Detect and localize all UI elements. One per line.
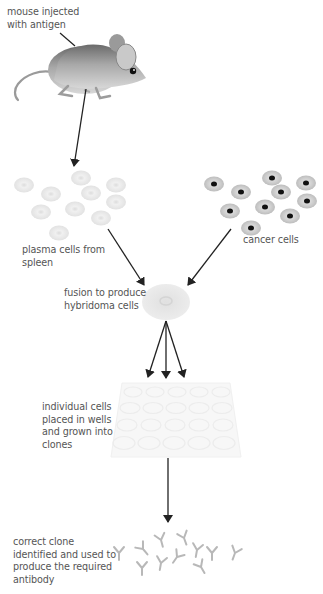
arrow-cancer-to-fusion [188, 229, 231, 285]
label-fusion: fusion to produce hybridoma cells [64, 287, 146, 312]
antibody-icon [169, 549, 185, 565]
cancer-cell-icon [262, 171, 282, 186]
antibody-icon [137, 562, 147, 575]
label-line: individual cells [42, 401, 113, 414]
antibody-icon [155, 533, 168, 548]
label-line: correct clone [13, 536, 116, 549]
cancer-cell-icon [204, 177, 224, 192]
plasma-cell-icon [49, 226, 69, 241]
label-wells: individual cells placed in wells and gro… [42, 401, 113, 451]
cancer-cell-icon [271, 185, 291, 200]
label-line: cancer cells [243, 234, 299, 247]
label-line: antibody [13, 574, 116, 587]
plasma-cell-icon [106, 178, 126, 193]
antibodies-group [114, 531, 242, 576]
antibody-icon [194, 559, 209, 575]
label-line: placed in wells [42, 414, 113, 427]
label-line: clones [42, 439, 113, 452]
cancer-cell-icon [255, 200, 275, 215]
antibody-icon [228, 546, 242, 562]
plasma-cell-icon [71, 171, 91, 186]
mouse-label-pointer [60, 33, 75, 46]
cancer-cell-icon [297, 194, 317, 209]
arrow-fusion-to-wells-left [148, 321, 166, 377]
label-line: mouse injected [7, 6, 79, 19]
label-plasma-cells: plasma cells from spleen [22, 244, 105, 269]
diagram-canvas [0, 0, 323, 594]
label-line: produce the required [13, 561, 116, 574]
antibody-icon [135, 541, 151, 557]
label-line: fusion to produce [64, 287, 146, 300]
label-correct-clone: correct clone identified and used to pro… [13, 536, 116, 586]
plasma-cell-icon [65, 202, 85, 217]
plasma-cell-icon [31, 205, 51, 220]
cancer-cell-icon [280, 209, 300, 224]
label-line: with antigen [7, 19, 79, 32]
label-mouse: mouse injected with antigen [7, 6, 79, 31]
label-line: spleen [22, 257, 105, 270]
arrow-plasma-to-fusion [108, 229, 144, 285]
antibody-icon [155, 556, 167, 571]
label-cancer-cells: cancer cells [243, 234, 299, 247]
well-plate-icon [111, 383, 241, 457]
hybridoma-cell-icon [142, 284, 190, 320]
label-line: and grown into [42, 426, 113, 439]
antibody-icon [207, 547, 217, 560]
cancer-cell-icon [220, 204, 240, 219]
arrow-mouse-to-plasma [74, 89, 86, 166]
plasma-cell-icon [81, 186, 101, 201]
plasma-cell-icon [14, 178, 34, 193]
label-line: identified and used to [13, 549, 116, 562]
cancer-cell-icon [231, 185, 251, 200]
plasma-cell-icon [91, 211, 111, 226]
antibody-icon [191, 543, 203, 558]
mouse-illustration [15, 34, 146, 100]
plasma-cell-icon [41, 187, 61, 202]
label-line: hybridoma cells [64, 300, 146, 313]
plasma-cell-icon [106, 195, 126, 210]
cancer-cells-group [204, 171, 317, 236]
antibody-icon [177, 531, 191, 547]
cancer-cell-icon [296, 176, 316, 191]
label-line: plasma cells from [22, 244, 105, 257]
arrow-fusion-to-wells-right [166, 321, 184, 377]
